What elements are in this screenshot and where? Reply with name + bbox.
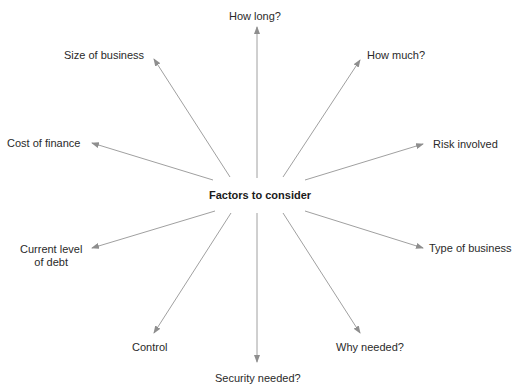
factor-why-needed: Why needed? xyxy=(336,341,404,354)
factor-current-level-line2: of debt xyxy=(20,256,82,269)
factor-type-of-business: Type of business xyxy=(429,242,512,255)
factor-cost-of-finance: Cost of finance xyxy=(7,137,80,150)
center-node: Factors to consider xyxy=(209,189,311,201)
arrow-why-needed xyxy=(283,213,360,333)
arrow-size-of-business xyxy=(154,59,230,177)
factor-size-of-business: Size of business xyxy=(64,49,144,62)
arrow-control xyxy=(154,213,231,333)
factor-control: Control xyxy=(132,341,167,354)
factor-security-needed: Security needed? xyxy=(215,372,301,385)
factor-risk-involved: Risk involved xyxy=(433,138,498,151)
arrow-current-debt xyxy=(92,211,215,248)
arrow-how-much xyxy=(283,60,360,177)
factor-current-level-of-debt: Current level of debt xyxy=(20,243,82,269)
factor-how-long: How long? xyxy=(229,10,281,23)
arrow-type-of-business xyxy=(305,211,423,248)
factor-how-much: How much? xyxy=(367,49,425,62)
factor-current-level-line1: Current level xyxy=(20,243,82,256)
arrow-cost-of-finance xyxy=(92,143,213,180)
arrow-risk-involved xyxy=(305,144,423,180)
